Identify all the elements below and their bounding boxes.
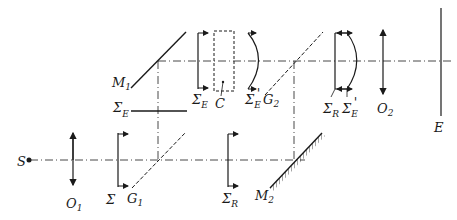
lens-o1-label: O1 bbox=[66, 196, 82, 213]
source-label: S bbox=[17, 154, 26, 169]
screen-e-label: E bbox=[433, 120, 444, 135]
sigma-r-right-label: ΣR bbox=[322, 101, 339, 119]
mirror-m1-label: M1 bbox=[111, 75, 131, 92]
mirror-m1 bbox=[131, 32, 186, 88]
sigma-e-prime-right-label: ΣE' bbox=[341, 95, 358, 119]
lens-o2-label: O2 bbox=[377, 101, 394, 118]
cell-c-label: C bbox=[215, 96, 225, 111]
splitter-g1-label: G1 bbox=[127, 191, 143, 208]
sigma-e-left-label: ΣE bbox=[112, 100, 129, 119]
sigma-label: Σ bbox=[105, 192, 116, 207]
beam-splitter-g2 bbox=[265, 32, 323, 95]
mirror-m2-hatch bbox=[270, 133, 325, 191]
mirror-m2 bbox=[270, 133, 322, 188]
splitter-g2-label: G2 bbox=[263, 92, 279, 109]
mirror-m2-label: M2 bbox=[254, 188, 274, 205]
source-point bbox=[27, 158, 32, 163]
sigma-r-lower-label: ΣR bbox=[221, 191, 238, 209]
sigma-e-top-label: ΣE bbox=[191, 92, 208, 110]
interferometer-diagram: S O1 Σ G1 M1 ΣE ΣE C ΣE' G2 ΣR ΣE' O2 bbox=[0, 0, 457, 220]
sigma-e-prime-label: ΣE' bbox=[244, 86, 261, 110]
